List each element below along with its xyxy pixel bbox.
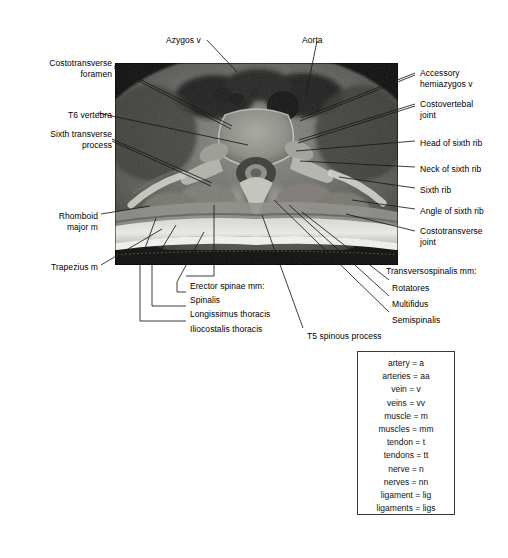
key-entry-3: veins = vv [358, 397, 454, 410]
label-trapezius-m: Trapezius m [14, 262, 98, 273]
label-rotatores: Rotatores [392, 283, 429, 294]
label-sixth-rib: Sixth rib [420, 185, 451, 196]
label-accessory-hemiazygos-vein: Accessory hemiazygos v [420, 68, 473, 90]
label-transversospinalis-mm: Transversospinalis mm: [386, 266, 477, 277]
label-t6-vertebra: T6 vertebra [14, 110, 112, 121]
label-neck-of-sixth-rib: Neck of sixth rib [420, 164, 481, 175]
key-entry-10: ligament = lig [358, 489, 454, 502]
label-iliocostalis-thoracis: Iliocostalis thoracis [190, 324, 262, 335]
key-entry-8: nerve = n [358, 463, 454, 476]
key-entry-2: vein = v [358, 383, 454, 396]
label-costotransverse-joint: Costotransverse joint [420, 226, 483, 248]
label-aorta: Aorta [302, 35, 323, 46]
label-costotransverse-foramen: Costotransverse foramen [14, 58, 112, 80]
key-entry-7: tendons = tt [358, 449, 454, 462]
label-head-of-sixth-rib: Head of sixth rib [420, 138, 482, 149]
label-spinalis: Spinalis [190, 295, 220, 306]
key-entry-5: muscles = mm [358, 423, 454, 436]
label-semispinalis: Semispinalis [392, 315, 440, 326]
abbreviation-key-box: artery = aarteries = aavein = vveins = v… [357, 351, 455, 515]
label-azygos-vein: Azygos v [166, 35, 201, 46]
label-t5-spinous-process: T5 spinous process [307, 331, 382, 342]
key-entry-4: muscle = m [358, 410, 454, 423]
anatomical-plate: Azygos vAortaCostotransverse foramenT6 v… [0, 0, 508, 558]
key-entry-0: artery = a [358, 357, 454, 370]
key-entry-1: arteries = aa [358, 370, 454, 383]
key-entry-9: nerves = nn [358, 476, 454, 489]
label-angle-of-sixth-rib: Angle of sixth rib [420, 206, 484, 217]
label-costovertebal-joint: Costovertebal joint [420, 99, 473, 121]
axial-scan-image [115, 63, 398, 265]
key-entry-11: ligaments = ligs [358, 502, 454, 515]
label-erector-spinae-mm: Erector spinae mm: [190, 281, 265, 292]
label-sixth-transverse-process: Sixth transverse process [14, 129, 112, 151]
label-longissimus-thoracis: Longissimus thoracis [190, 309, 270, 320]
label-rhomboid-major-m: Rhomboid major m [14, 211, 98, 233]
label-multifidus: Multifidus [392, 299, 428, 310]
key-entry-6: tendon = t [358, 436, 454, 449]
